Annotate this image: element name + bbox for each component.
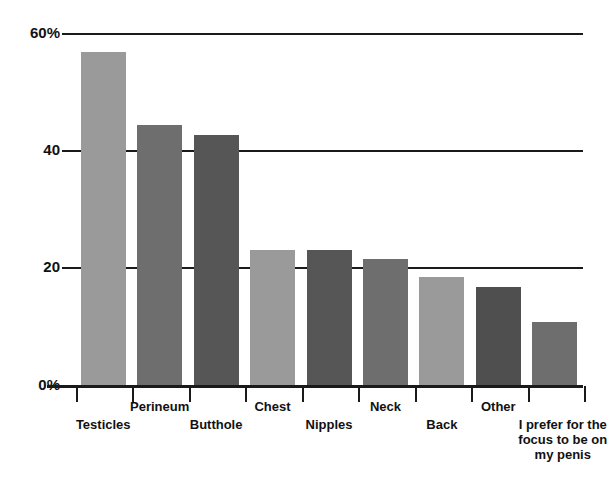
x-axis-baseline (47, 385, 583, 388)
bar (476, 287, 521, 385)
y-axis-label-40: 40 (0, 141, 60, 158)
x-axis-label: Nipples (281, 417, 377, 432)
y-axis-label-20: 20 (0, 258, 60, 275)
x-axis-label: Butthole (168, 417, 264, 432)
y-tick-stub-60 (62, 33, 76, 35)
y-tick-stub-20 (62, 267, 76, 269)
x-axis-tick (584, 386, 586, 402)
gridline-60 (75, 33, 583, 35)
x-axis-label: Chest (225, 399, 321, 414)
x-axis-label: Other (450, 399, 546, 414)
bar (137, 125, 182, 385)
bar (363, 259, 408, 385)
bar (250, 250, 295, 385)
bar (532, 322, 577, 385)
x-axis-label: Testicles (55, 417, 151, 432)
y-axis-label-60: 60% (0, 24, 60, 41)
bar (307, 250, 352, 385)
x-axis-label: Perineum (112, 399, 208, 414)
x-axis-label: Neck (337, 399, 433, 414)
bar-chart: 60% 40 20 0% TesticlesPerineumButtholeCh… (0, 0, 611, 486)
x-axis-tick (76, 386, 78, 402)
plot-area (75, 33, 583, 385)
x-axis-label: Back (394, 417, 490, 432)
bar (419, 277, 464, 385)
x-axis-label: I prefer for the focus to be on my penis (488, 417, 611, 462)
y-tick-stub-40 (62, 150, 76, 152)
bar (81, 52, 126, 385)
bar (194, 135, 239, 386)
